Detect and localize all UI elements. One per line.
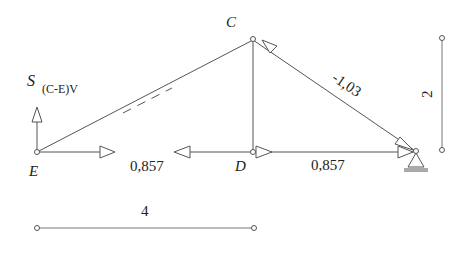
node-label-e: E (28, 163, 38, 179)
width-dim-label: 4 (141, 203, 149, 219)
arrow-up-head-icon (32, 107, 42, 122)
node-e (35, 150, 40, 155)
member-e-c (37, 40, 253, 152)
arrow-right-e-icon (100, 146, 115, 158)
height-dim-start (440, 36, 445, 41)
pin-support-icon (408, 153, 424, 167)
height-dim-label: 2 (419, 91, 435, 99)
force-label-db: 0,857 (311, 157, 345, 173)
node-label-d: D (234, 158, 246, 174)
node-label-c: C (226, 14, 237, 30)
arrow-left-d-icon (174, 146, 190, 158)
arrow-c-icon (262, 40, 277, 53)
node-c (251, 37, 256, 42)
force-label-ed: 0,857 (130, 158, 164, 174)
dashed-force-indicator (123, 88, 172, 113)
arrow-right-d-icon (256, 146, 272, 158)
force-symbol: S (27, 72, 35, 89)
height-dim-end (440, 148, 445, 153)
member-c-b (253, 40, 414, 150)
width-dim-start (35, 226, 40, 231)
truss-diagram: C E D S (C-E)V -1,03 0,857 0,857 2 4 (0, 0, 466, 258)
width-dim-end (252, 226, 257, 231)
node-d (251, 150, 256, 155)
force-subscript: (C-E)V (42, 82, 78, 96)
